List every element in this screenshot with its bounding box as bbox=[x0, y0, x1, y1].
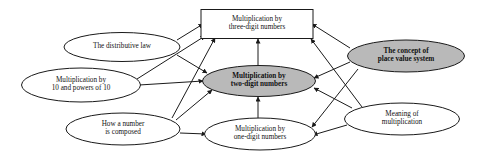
concept-map-diagram: Multiplication by three-digit numbersThe… bbox=[0, 0, 481, 160]
node-place-value[interactable] bbox=[348, 40, 465, 72]
edge-place-value-to-three-digit bbox=[312, 24, 350, 48]
node-distributive-law[interactable] bbox=[64, 33, 180, 62]
edge-distributive-law-to-three-digit bbox=[177, 24, 203, 40]
edge-powers-of-ten-to-two-digit bbox=[139, 81, 203, 85]
node-powers-of-ten[interactable] bbox=[22, 68, 141, 102]
edge-place-value-to-two-digit bbox=[314, 62, 350, 78]
node-how-composed[interactable] bbox=[66, 113, 180, 145]
node-one-digit[interactable] bbox=[205, 118, 316, 150]
node-meaning[interactable] bbox=[345, 103, 460, 135]
node-two-digit[interactable] bbox=[203, 66, 316, 97]
edge-how-composed-to-two-digit bbox=[176, 90, 212, 120]
node-three-digit[interactable] bbox=[201, 10, 313, 39]
node-layer bbox=[22, 10, 465, 151]
edge-meaning-to-one-digit bbox=[313, 125, 347, 135]
edge-distributive-law-to-two-digit bbox=[177, 55, 207, 73]
diagram-canvas bbox=[0, 0, 481, 160]
edge-meaning-to-two-digit bbox=[314, 88, 352, 108]
edge-how-composed-to-one-digit bbox=[180, 133, 206, 134]
